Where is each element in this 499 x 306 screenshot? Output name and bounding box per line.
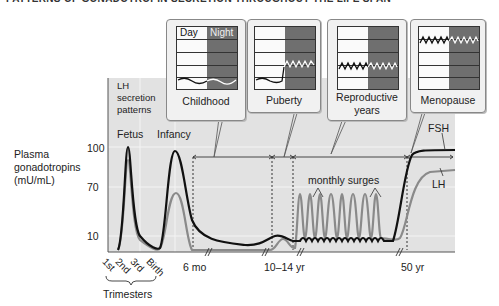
y-label-line: gonadotropins (14, 161, 81, 174)
lh-secretion-patterns-label: LH secretion patterns (117, 80, 156, 116)
panel-caption: Childhood (167, 95, 245, 108)
panel-menopause: Menopause (410, 19, 486, 113)
lh-label-line: secretion (117, 92, 156, 104)
monthly-surges-label: monthly surges (308, 174, 379, 186)
lh-line-label: LH (432, 178, 445, 190)
x-tick-10-14yr: 10–14 yr (264, 261, 305, 273)
panel-reproductive-years: Reproductive years (327, 19, 407, 121)
lh-label-line: LH (117, 80, 156, 92)
panel-puberty: Puberty (247, 19, 321, 113)
y-label-line: (mU/mL) (14, 174, 81, 187)
y-tick-70: 70 (87, 181, 99, 193)
y-label-line: Plasma (14, 148, 81, 161)
panel-caption: Menopause (411, 94, 485, 107)
day-night-grid (337, 26, 399, 90)
day-night-grid (254, 26, 316, 90)
y-tick-100: 100 (87, 142, 105, 154)
panel-childhood: Day Night Childhood (166, 19, 246, 121)
day-night-grid: Day Night (176, 26, 238, 90)
x-tick-50yr: 50 yr (401, 261, 424, 273)
x-tick-6mo: 6 mo (183, 261, 206, 273)
panel-caption: Reproductive years (328, 91, 406, 117)
y-axis-label: Plasma gonadotropins (mU/mL) (14, 148, 81, 187)
fsh-label: FSH (428, 122, 449, 134)
lh-label-line: patterns (117, 104, 156, 116)
trimesters-label: Trimesters (103, 288, 152, 300)
y-tick-10: 10 (87, 230, 99, 242)
day-night-grid (418, 26, 480, 90)
fetus-label: Fetus (117, 128, 143, 140)
panel-caption: Puberty (248, 94, 320, 107)
infancy-label: Infancy (157, 128, 191, 140)
